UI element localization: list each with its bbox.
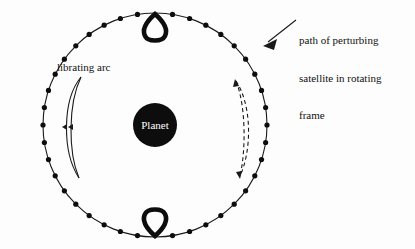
orbit-dot [42, 140, 47, 145]
orbit-dot [62, 188, 67, 193]
dashed-arc-group [233, 79, 249, 179]
path-label-line3: frame [299, 109, 381, 122]
bottom-loop-icon [144, 210, 166, 237]
orbit-dot [87, 32, 92, 37]
orbit-dot [46, 88, 51, 93]
orbit-dot [187, 16, 192, 21]
orbit-dot [170, 233, 175, 238]
orbit-dot [135, 12, 140, 17]
librating-arc-group [62, 77, 81, 178]
orbit-dot [135, 233, 140, 238]
orbit-dot [46, 157, 51, 162]
orbit-dot [243, 57, 248, 62]
orbit-dot [73, 43, 78, 48]
orbit-dot [252, 173, 257, 178]
orbit-diagram: Planet path of perturbing satellite in r… [0, 0, 415, 249]
orbit-dot [87, 213, 92, 218]
orbit-dot [73, 202, 78, 207]
orbit-dot [102, 222, 107, 227]
path-label-line2: satellite in rotating [299, 72, 381, 85]
orbit-dot [40, 122, 45, 127]
orbit-dot [42, 105, 47, 110]
pointer-line [268, 20, 296, 42]
dashed-arc-arrowhead-bottom [236, 171, 242, 179]
orbit-dot [259, 157, 264, 162]
orbit-dot [118, 16, 123, 21]
orbit-dot [102, 23, 107, 28]
orbit-dot [218, 213, 223, 218]
orbit-dot [232, 202, 237, 207]
orbit-dot [263, 105, 268, 110]
path-label-text: path of perturbing satellite in rotating… [299, 9, 381, 147]
orbit-dot [232, 43, 237, 48]
orbit-dot [118, 229, 123, 234]
planet-label: Planet [141, 119, 169, 131]
orbit-dot [53, 173, 58, 178]
orbit-dot [203, 222, 208, 227]
path-label-line1: path of perturbing [299, 34, 381, 47]
librating-arc-arrowhead-outer [62, 124, 67, 130]
path-label-pointer [263, 20, 296, 50]
orbit-dot [203, 23, 208, 28]
orbit-dot [263, 140, 268, 145]
dashed-arc-outer [236, 81, 249, 176]
orbit-dot [264, 122, 269, 127]
dashed-arc-arrowhead-top [233, 79, 239, 87]
orbit-dot [218, 32, 223, 37]
planet-body: Planet [133, 103, 177, 147]
orbit-dot [259, 88, 264, 93]
librating-arc-label: librating arc [57, 61, 110, 74]
orbit-dot [187, 229, 192, 234]
orbit-dot [252, 72, 257, 77]
orbit-dot [243, 188, 248, 193]
top-loop-icon [144, 14, 166, 41]
orbit-dot [170, 12, 175, 17]
